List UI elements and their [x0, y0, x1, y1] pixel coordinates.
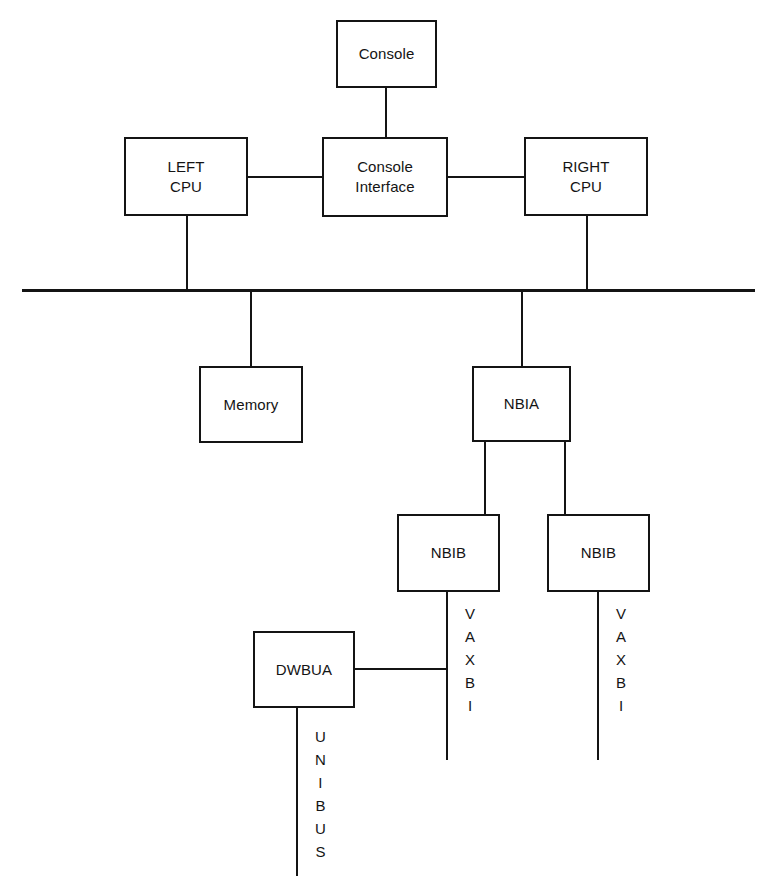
- bus-label-char: B: [315, 794, 325, 817]
- bus-label-char: X: [616, 648, 626, 671]
- node-nbia: NBIA: [472, 366, 571, 442]
- bus-label-char: A: [616, 625, 626, 648]
- bus-label-char: N: [315, 748, 326, 771]
- node-left-cpu: LEFT CPU: [124, 137, 248, 216]
- node-console-interface: Console Interface: [322, 137, 448, 217]
- node-dwbua: DWBUA: [253, 631, 355, 708]
- node-label-memory: Memory: [224, 395, 279, 415]
- bus-label-char: I: [468, 694, 473, 717]
- node-label-nbib-right: NBIB: [581, 543, 616, 563]
- bus-label-char: B: [616, 671, 626, 694]
- node-label-left-cpu: LEFT CPU: [167, 157, 204, 197]
- node-memory: Memory: [199, 366, 303, 443]
- node-label-right-cpu: RIGHT CPU: [562, 157, 609, 197]
- bus-label-char: U: [315, 725, 326, 748]
- bus-label-char: I: [318, 771, 323, 794]
- node-label-nbib-left: NBIB: [431, 543, 466, 563]
- node-right-cpu: RIGHT CPU: [524, 137, 648, 216]
- bus-label-char: A: [465, 625, 475, 648]
- bus-label-unibus: UNIBUS: [315, 725, 326, 863]
- bus-label-char: V: [465, 602, 475, 625]
- bus-label-char: S: [315, 840, 325, 863]
- node-label-console: Console: [359, 44, 415, 64]
- bus-label-char: V: [616, 602, 626, 625]
- connection-lines-layer: [0, 0, 775, 892]
- system-block-diagram: ConsoleLEFT CPUConsole InterfaceRIGHT CP…: [0, 0, 775, 892]
- bus-label-vaxbi-right: VAXBI: [616, 602, 626, 717]
- node-label-nbia: NBIA: [504, 394, 539, 414]
- bus-label-vaxbi-left: VAXBI: [465, 602, 475, 717]
- node-label-console-interface: Console Interface: [355, 157, 414, 197]
- node-console: Console: [336, 20, 437, 88]
- bus-label-char: X: [465, 648, 475, 671]
- bus-label-char: B: [465, 671, 475, 694]
- bus-label-char: U: [315, 817, 326, 840]
- node-nbib-right: NBIB: [547, 514, 650, 592]
- bus-label-char: I: [619, 694, 624, 717]
- node-label-dwbua: DWBUA: [276, 660, 332, 680]
- node-nbib-left: NBIB: [397, 514, 500, 592]
